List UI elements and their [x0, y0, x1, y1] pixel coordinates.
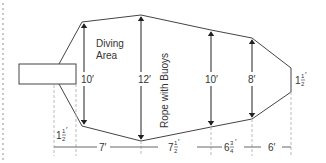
left-offset-label: 1 1 2 ′ [56, 125, 68, 142]
width-label-1: 10′ [81, 74, 94, 85]
diving-area-label-2: Area [96, 50, 118, 61]
svg-text:4: 4 [230, 148, 234, 154]
pool-diagram: Diving Area Rope with Buoys 10′ 12′ 10′ … [0, 0, 326, 163]
diving-area-label-1: Diving [96, 38, 124, 49]
rope-label: Rope with Buoys [159, 53, 170, 128]
svg-text:2: 2 [62, 136, 66, 142]
svg-text:′: ′ [66, 125, 68, 134]
svg-text:2: 2 [174, 148, 178, 154]
svg-text:3: 3 [230, 140, 234, 146]
length-label-3: 6 3 4 ′ [224, 137, 237, 154]
width-label-4: 8′ [248, 74, 256, 85]
length-label-1: 7′ [99, 142, 107, 153]
svg-text:′: ′ [235, 137, 237, 146]
width-label-2: 12′ [138, 74, 151, 85]
svg-text:′: ′ [305, 70, 307, 79]
svg-text:′: ′ [178, 137, 180, 146]
length-label-4: 6′ [268, 142, 276, 153]
right-end-label: 1 1 2 ′ [295, 70, 307, 87]
diving-board [19, 64, 76, 84]
width-label-3: 10′ [205, 74, 218, 85]
svg-text:2: 2 [301, 81, 305, 87]
length-label-2: 7 1 2 ′ [168, 137, 180, 154]
